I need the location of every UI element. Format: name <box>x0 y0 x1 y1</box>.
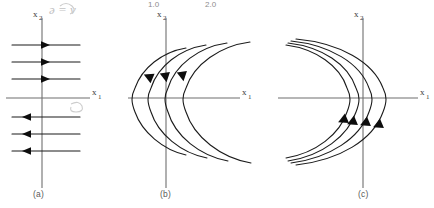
handwritten-annotation: ə = v <box>49 2 82 112</box>
panel-c-orbit <box>291 41 374 163</box>
panel-c-x-axis-label-sub: 1 <box>426 93 430 101</box>
panel-b-y-axis-label: x 2 <box>157 9 167 22</box>
panel-b: x 2 x 1 <box>128 9 252 199</box>
panel-c-y-axis-label: x 2 <box>354 9 364 22</box>
arrow-right-icon <box>41 58 50 66</box>
panel-a: x 2 x 1 <box>6 9 102 199</box>
panel-b-caption: (b) <box>160 189 171 199</box>
panel-c-orbit <box>286 45 352 158</box>
panel-a-streamline <box>12 113 80 121</box>
arrow-up-icon <box>144 69 158 83</box>
handwriting-loop-icon <box>71 102 83 112</box>
arrow-left-icon <box>22 113 31 121</box>
panel-a-x-axis-label-main: x <box>92 87 97 97</box>
panel-a-caption: (a) <box>33 189 44 199</box>
arrow-right-icon <box>41 41 50 49</box>
cut-label-left: 1.0 <box>148 0 160 9</box>
panel-a-streamline <box>12 58 80 66</box>
arrow-left-icon <box>22 130 31 138</box>
arrow-down-icon <box>373 119 387 133</box>
panel-a-y-axis-label-sub: 2 <box>39 14 43 22</box>
panel-a-streamline <box>12 147 80 155</box>
panel-c-y-axis-label-sub: 2 <box>360 14 364 22</box>
panel-b-y-axis-label-sub: 2 <box>163 14 167 22</box>
panel-a-streamline <box>12 130 80 138</box>
panel-b-x-axis-label: x 1 <box>242 87 252 101</box>
arrow-right-icon <box>41 75 50 83</box>
arrow-left-icon <box>22 147 31 155</box>
panel-b-y-axis-label-main: x <box>157 9 162 19</box>
panel-a-streamline <box>12 41 80 49</box>
panel-c-orbit <box>296 39 387 165</box>
panel-c-y-axis-label-main: x <box>354 9 359 19</box>
panel-a-x-axis-label-sub: 1 <box>98 93 102 101</box>
arrow-down-icon <box>347 116 361 130</box>
panel-b-x-axis-label-main: x <box>242 87 247 97</box>
phase-portrait-figure: 1.0 2.0 ə = v x 2 x 1 <box>0 0 434 208</box>
panel-c-x-axis-label: x 1 <box>420 87 430 101</box>
panel-b-orbit <box>183 42 251 163</box>
panel-c: x 2 x 1 <box>278 9 430 199</box>
arrow-down-icon <box>360 117 374 131</box>
panel-b-x-axis-label-sub: 1 <box>248 93 252 101</box>
panel-a-streamline <box>12 75 80 83</box>
panel-a-y-axis-label-main: x <box>33 9 38 19</box>
panel-c-x-axis-label-main: x <box>420 87 425 97</box>
figure-container: 1.0 2.0 ə = v x 2 x 1 <box>0 0 434 208</box>
panel-a-y-axis-label: x 2 <box>33 9 43 22</box>
panel-b-orbit <box>132 48 186 155</box>
panel-c-caption: (c) <box>358 189 369 199</box>
panel-a-x-axis-label: x 1 <box>92 87 102 101</box>
cut-label-right: 2.0 <box>205 0 217 9</box>
